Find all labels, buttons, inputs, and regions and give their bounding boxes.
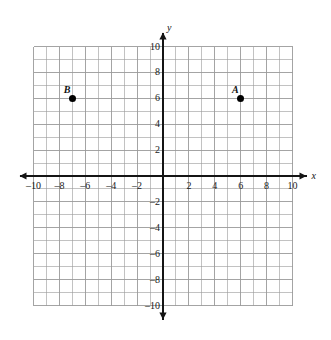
x-tick-label: 6 <box>238 181 243 191</box>
x-tick-label: 2 <box>186 181 191 191</box>
y-tick-label: –4 <box>150 223 160 233</box>
y-tick-label: –2 <box>150 197 160 207</box>
coordinate-plane-figure: –10–8–6–4–2246810108642–2–4–6–8–10 BA x … <box>0 0 331 340</box>
x-tick-label: –6 <box>80 181 90 191</box>
x-tick-label: –10 <box>26 181 41 191</box>
x-tick-label: 8 <box>264 181 269 191</box>
y-tick-label: –6 <box>150 249 160 259</box>
x-tick-label: –4 <box>106 181 116 191</box>
x-tick-label: –2 <box>132 181 142 191</box>
y-tick-label: 4 <box>155 119 160 129</box>
data-point-b <box>69 95 76 102</box>
y-tick-label: 2 <box>155 145 160 155</box>
y-tick-label: 10 <box>150 42 160 52</box>
x-tick-label: 4 <box>212 181 217 191</box>
y-tick-label: –8 <box>150 275 160 285</box>
y-tick-label: –10 <box>145 301 160 311</box>
x-tick-label: 10 <box>288 181 298 191</box>
y-tick-label: 8 <box>155 67 160 77</box>
coordinate-grid <box>0 0 331 340</box>
data-point-a <box>237 95 244 102</box>
x-tick-label: –8 <box>54 181 64 191</box>
x-axis-label: x <box>312 171 316 181</box>
y-tick-label: 6 <box>155 93 160 103</box>
y-axis-label: y <box>167 23 171 33</box>
axis-lines <box>20 33 307 320</box>
point-label-b: B <box>64 85 71 95</box>
point-label-a: A <box>232 85 239 95</box>
